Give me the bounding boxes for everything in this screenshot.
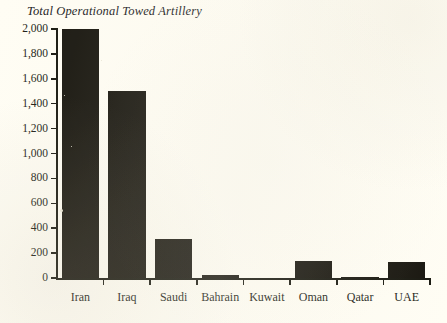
bar-qatar (341, 277, 378, 278)
x-tick (429, 278, 431, 285)
x-tick (336, 278, 338, 285)
chart-title: Total Operational Towed Artillery (27, 4, 202, 19)
x-label-saudi: Saudi (160, 291, 187, 303)
y-tick (51, 128, 57, 130)
y-tick (51, 178, 57, 180)
y-tick-label: 1,200 (22, 123, 48, 135)
y-tick-label: 800 (31, 172, 48, 184)
bar-oman (295, 261, 332, 278)
y-tick-label: 1,000 (22, 148, 48, 160)
x-label-kuwait: Kuwait (249, 291, 284, 303)
x-tick (289, 278, 291, 285)
y-tick-label: 400 (31, 222, 48, 234)
x-tick (383, 278, 385, 285)
y-tick-label: 200 (31, 247, 48, 258)
x-tick (196, 278, 198, 285)
chart-page: Total Operational Towed Artillery 020040… (0, 0, 447, 323)
y-tick (51, 153, 57, 155)
x-tick (243, 278, 245, 285)
bar-saudi (155, 239, 192, 278)
y-tick (51, 78, 57, 80)
y-tick (51, 277, 57, 279)
y-tick (51, 53, 57, 55)
x-tick (149, 278, 151, 285)
y-tick-label: 1,800 (22, 48, 48, 60)
x-label-oman: Oman (299, 291, 328, 303)
x-label-iran: Iran (71, 291, 90, 303)
y-tick-label: 600 (31, 197, 48, 209)
y-tick-label: 1,400 (22, 98, 48, 110)
y-tick-label: 1,600 (22, 73, 48, 85)
y-tick (51, 252, 57, 254)
y-tick (51, 203, 57, 205)
x-label-uae: UAE (394, 291, 419, 303)
bar-bahrain (202, 275, 239, 278)
y-tick (51, 227, 57, 229)
bar-iran (62, 29, 99, 278)
y-tick (51, 28, 57, 30)
y-tick-label: 0 (42, 272, 48, 284)
x-label-qatar: Qatar (347, 291, 374, 303)
y-tick-label: 2,000 (22, 23, 48, 35)
x-tick (103, 278, 105, 285)
bar-iraq (108, 91, 145, 278)
x-label-bahrain: Bahrain (201, 291, 239, 303)
bar-uae (388, 262, 425, 278)
x-label-iraq: Iraq (117, 291, 136, 303)
plot-area: 02004006008001,0001,2001,4001,6001,8002,… (57, 29, 430, 278)
y-tick (51, 103, 57, 105)
